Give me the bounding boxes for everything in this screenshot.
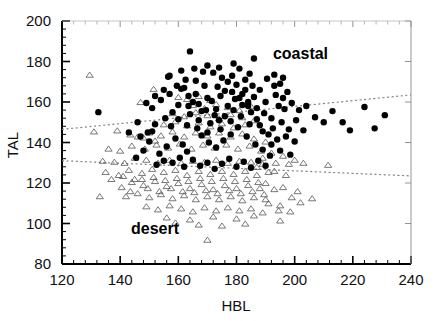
coastal-marker [200,68,206,74]
x-tick-label: 220 [340,271,365,288]
coastal-marker [293,117,299,123]
coastal-marker [277,81,283,87]
coastal-marker [261,110,267,116]
coastal-marker [248,165,254,171]
coastal-marker [214,84,220,90]
coastal-marker [235,124,241,130]
coastal-marker [161,87,167,93]
coastal-marker [190,157,196,163]
coastal-marker [273,92,279,98]
coastal-marker [152,121,158,127]
coastal-marker [246,70,252,76]
coastal-marker [137,133,143,139]
coastal-marker [216,64,222,70]
coastal-marker [262,163,268,169]
coastal-marker [175,102,181,108]
coastal-marker [265,131,271,137]
annotation-coastal: coastal [273,45,328,62]
coastal-marker [249,83,255,89]
y-tick-label: 100 [26,215,51,232]
coastal-marker [371,125,377,131]
coastal-marker [321,119,327,125]
coastal-marker [270,125,276,131]
coastal-marker [198,108,204,114]
coastal-marker [283,133,289,139]
y-tick-label: 160 [26,93,51,110]
coastal-marker [229,72,235,78]
coastal-marker [268,115,274,121]
coastal-marker [134,119,140,125]
scatter-plot: 120140160180200220240 801001201401601802… [0,0,436,321]
coastal-marker [267,152,273,158]
coastal-marker [246,121,252,127]
coastal-marker [149,128,155,134]
coastal-marker [177,154,183,160]
coastal-marker [153,162,159,168]
coastal-marker [209,98,215,104]
coastal-marker [146,138,152,144]
x-tick-label: 160 [166,271,191,288]
coastal-marker [339,119,345,125]
coastal-marker [184,122,190,128]
y-tick-label: 200 [26,12,51,29]
y-tick-label: 80 [34,255,51,272]
coastal-marker [226,156,232,162]
coastal-marker [243,133,249,139]
coastal-marker [262,99,268,105]
coastal-marker [195,117,201,123]
coastal-marker [248,109,254,115]
coastal-marker [227,118,233,124]
coastal-marker [274,136,280,142]
coastal-marker [257,87,263,93]
coastal-marker [162,115,168,121]
coastal-marker [242,77,248,83]
x-axis-title: HBL [221,297,250,314]
coastal-marker [152,93,158,99]
coastal-marker [169,109,175,115]
coastal-marker [257,122,263,128]
coastal-marker [229,89,235,95]
coastal-marker [149,105,155,111]
coastal-marker [236,95,242,101]
coastal-marker [303,103,309,109]
coastal-marker [220,137,226,143]
coastal-marker [206,139,212,145]
coastal-marker [210,69,216,75]
coastal-marker [291,138,297,144]
coastal-marker [281,106,287,112]
coastal-marker [204,62,210,68]
coastal-marker [185,93,191,99]
coastal-marker [201,83,207,89]
coastal-marker [204,129,210,135]
coastal-marker [233,164,239,170]
coastal-marker [211,112,217,118]
coastal-marker [284,89,290,95]
coastal-marker [242,87,248,93]
coastal-marker [219,75,225,81]
coastal-marker [175,116,181,122]
coastal-marker [193,91,199,97]
coastal-marker [245,103,251,109]
coastal-marker [126,129,132,135]
coastal-marker [169,160,175,166]
coastal-marker [254,105,260,111]
coastal-marker [164,143,170,149]
coastal-marker [198,132,204,138]
coastal-marker [241,159,247,165]
coastal-marker [184,148,190,154]
coastal-marker [213,144,219,150]
coastal-marker [278,119,284,125]
y-tick-label: 120 [26,174,51,191]
coastal-marker [168,123,174,129]
coastal-marker [187,48,193,54]
coastal-marker [219,161,225,167]
coastal-marker [230,60,236,66]
coastal-marker [225,79,231,85]
coastal-marker [225,103,231,109]
coastal-marker [187,111,193,117]
coastal-marker [280,95,286,101]
coastal-marker [172,135,178,141]
coastal-marker [254,116,260,122]
coastal-marker [271,71,277,77]
coastal-marker [222,113,228,119]
